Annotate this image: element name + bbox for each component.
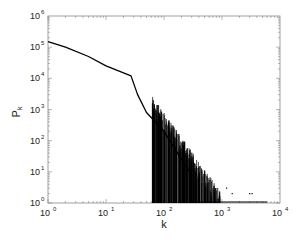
svg-text:6: 6 [41,9,45,15]
y-tick-labels: 100101102103104105106 [30,9,45,208]
svg-text:0: 0 [41,196,45,202]
svg-text:10: 10 [214,208,224,218]
svg-text:10: 10 [98,208,108,218]
svg-text:1: 1 [41,165,45,171]
y-axis-label: Pk [10,106,23,117]
svg-text:2: 2 [41,134,45,140]
svg-text:10: 10 [30,105,40,115]
svg-text:3: 3 [227,206,231,212]
x-axis-label: k [161,218,167,230]
svg-text:4: 4 [285,206,289,212]
svg-text:10: 10 [272,208,282,218]
x-tick-labels: 100101102103104 [40,206,289,218]
svg-text:2: 2 [169,206,173,212]
svg-text:10: 10 [30,42,40,52]
svg-text:10: 10 [156,208,166,218]
svg-text:10: 10 [40,208,50,218]
chart: 100101102103104 100101102103104105106 k … [0,0,300,240]
svg-text:5: 5 [41,40,45,46]
svg-text:1: 1 [111,206,115,212]
svg-text:10: 10 [30,136,40,146]
svg-text:4: 4 [41,71,45,77]
svg-text:10: 10 [30,73,40,83]
svg-text:10: 10 [30,11,40,21]
svg-text:0: 0 [53,206,57,212]
svg-text:10: 10 [30,167,40,177]
svg-text:3: 3 [41,103,45,109]
svg-text:10: 10 [30,198,40,208]
